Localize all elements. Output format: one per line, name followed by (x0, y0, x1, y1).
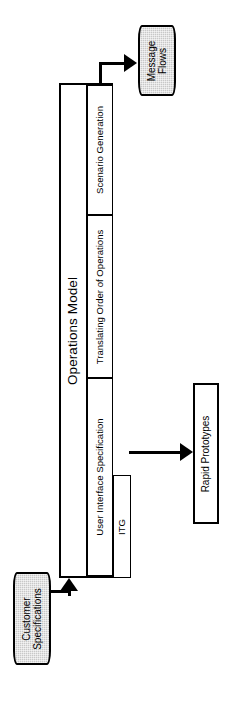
itg-label: ITG (117, 519, 128, 535)
phase-translating-order-of-operations-label: Translating Order of Operations (95, 229, 106, 364)
operations-model-title-column: Operations Model (59, 83, 86, 578)
arrowhead-message-flows-icon (124, 54, 137, 72)
connector-scenario-to-message-flows-horizontal (99, 62, 125, 65)
phase-user-interface-specification-label: User Interface Specification (95, 418, 106, 535)
connector-scenario-to-message-flows-vertical (99, 62, 102, 86)
phase-scenario-generation-label: Scenario Generation (95, 106, 106, 194)
operations-model-title: Operations Model (65, 276, 80, 384)
phase-translating-order-of-operations[interactable]: Translating Order of Operations (87, 215, 113, 378)
diagram-canvas: Operations Model Scenario Generation Tra… (0, 0, 234, 714)
connector-uispec-to-rapid-prototypes (129, 451, 181, 454)
customer-specifications-node[interactable]: Customer Specifications (13, 572, 51, 665)
phase-user-interface-specification[interactable]: User Interface Specification (87, 378, 113, 576)
arrowhead-operations-model-input-icon (60, 578, 78, 591)
customer-specifications-label: Customer Specifications (21, 588, 43, 650)
message-flows-node[interactable]: Message Flows (138, 25, 176, 96)
rapid-prototypes-node[interactable]: Rapid Prototypes (193, 383, 219, 524)
message-flows-label-line2: Flows (157, 47, 168, 73)
message-flows-label-line1: Message (146, 40, 157, 81)
message-flows-label: Message Flows (146, 40, 168, 81)
phase-scenario-generation[interactable]: Scenario Generation (87, 85, 113, 215)
customer-specifications-label-line2: Specifications (32, 588, 43, 650)
itg-box[interactable]: ITG (113, 475, 131, 578)
rapid-prototypes-label: Rapid Prototypes (200, 415, 211, 492)
customer-specifications-label-line1: Customer (21, 597, 32, 640)
arrowhead-rapid-prototypes-icon (180, 443, 193, 461)
